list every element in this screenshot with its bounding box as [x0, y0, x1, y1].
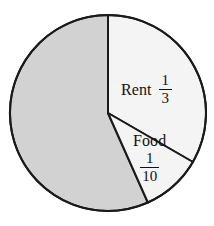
fraction-denominator: 3	[159, 90, 171, 106]
pie-label-rent: Rent 1 3	[121, 73, 172, 106]
fraction-numerator: 1	[144, 151, 156, 167]
pie-label-food: Food 1 10	[133, 133, 166, 184]
fraction-denominator: 10	[140, 168, 159, 184]
pie-label-rent-fraction: 1 3	[159, 73, 172, 106]
pie-label-food-text: Food	[133, 133, 166, 149]
pie-chart-svg	[0, 0, 214, 226]
pie-chart-figure: Rent 1 3 Food 1 10	[0, 0, 214, 226]
fraction-numerator: 1	[159, 73, 171, 89]
pie-label-rent-text: Rent	[121, 82, 152, 98]
pie-label-food-fraction: 1 10	[140, 151, 159, 184]
